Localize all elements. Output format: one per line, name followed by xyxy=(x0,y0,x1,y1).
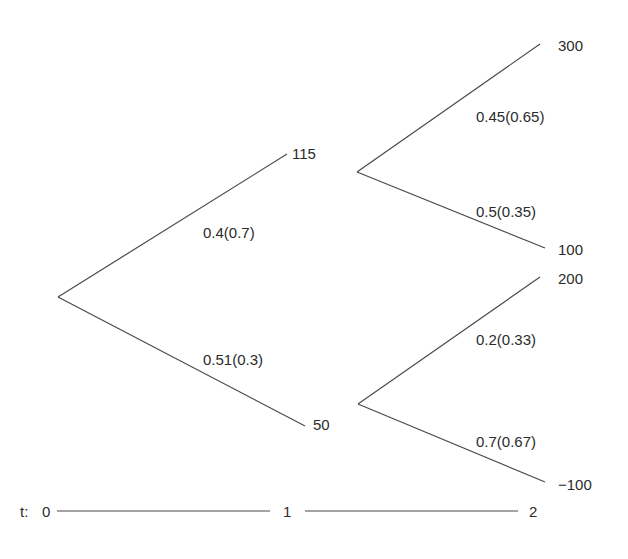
node-t1-down: 50 xyxy=(313,416,330,434)
branch-label-up-up: 0.45(0.65) xyxy=(476,108,544,126)
timeline-t2: 2 xyxy=(529,503,537,521)
branch-label-up-down: 0.5(0.35) xyxy=(476,203,536,221)
branch-label-down-up: 0.2(0.33) xyxy=(476,331,536,349)
branch-label-root-down: 0.51(0.3) xyxy=(203,351,263,369)
node-t2-down-down: −100 xyxy=(558,476,592,494)
branch-label-down-down: 0.7(0.67) xyxy=(476,433,536,451)
timeline-t0: 0 xyxy=(42,503,50,521)
node-t2-up-down: 100 xyxy=(558,241,583,259)
timeline-prefix: t: xyxy=(20,503,28,521)
branch-root-down xyxy=(58,297,305,426)
node-t1-up: 115 xyxy=(292,145,316,163)
node-t2-down-up: 200 xyxy=(558,270,583,288)
timeline-t1: 1 xyxy=(283,503,291,521)
tree-lines xyxy=(0,0,628,559)
node-t2-up-up: 300 xyxy=(558,37,583,55)
branch-label-root-up: 0.4(0.7) xyxy=(203,224,255,242)
